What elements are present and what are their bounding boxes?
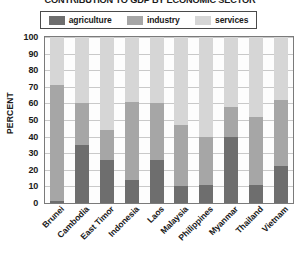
segment-agriculture [50, 201, 64, 203]
legend-item-industry: industry [127, 15, 180, 25]
segment-agriculture [125, 180, 139, 203]
legend-label-industry: industry [147, 15, 180, 25]
y-tick-80: 80 [28, 65, 38, 75]
legend-label-services: services [215, 15, 248, 25]
bar-cambodia [75, 37, 89, 203]
legend-swatch-industry [127, 16, 143, 25]
segment-services [224, 37, 238, 107]
x-tick-vietnam: Vietnam [260, 204, 290, 234]
y-tick-40: 40 [28, 132, 38, 142]
segment-agriculture [249, 185, 263, 203]
y-tick-10: 10 [28, 181, 38, 191]
legend-item-services: services [195, 15, 248, 25]
segment-services [274, 37, 288, 100]
y-tick-90: 90 [28, 49, 38, 59]
plot-area [44, 36, 294, 204]
segment-industry [100, 130, 114, 160]
segment-agriculture [174, 186, 188, 203]
segment-agriculture [274, 166, 288, 203]
segment-agriculture [199, 185, 213, 203]
y-tick-60: 60 [28, 98, 38, 108]
legend-label-agriculture: agriculture [69, 15, 112, 25]
segment-services [100, 37, 114, 130]
legend-item-agriculture: agriculture [49, 15, 112, 25]
legend-swatch-agriculture [49, 16, 65, 25]
segment-industry [75, 103, 89, 145]
segment-services [125, 37, 139, 102]
segment-services [199, 37, 213, 137]
segment-industry [224, 107, 238, 137]
bar-brunei [50, 37, 64, 203]
y-tick-50: 50 [28, 115, 38, 125]
segment-services [174, 37, 188, 125]
segment-industry [174, 125, 188, 186]
bars-layer [45, 37, 293, 203]
bar-laos [150, 37, 164, 203]
segment-services [75, 37, 89, 103]
bar-vietnam [274, 37, 288, 203]
bar-philippines [199, 37, 213, 203]
chart-container: CONTRIBUTION TO GDP BY ECONOMIC SECTOR a… [0, 0, 300, 267]
segment-agriculture [100, 160, 114, 203]
y-tick-0: 0 [33, 198, 38, 208]
bar-myanmar [224, 37, 238, 203]
bar-thailand [249, 37, 263, 203]
bar-east-timor [100, 37, 114, 203]
bar-malaysia [174, 37, 188, 203]
segment-agriculture [75, 145, 89, 203]
segment-industry [249, 117, 263, 185]
segment-services [249, 37, 263, 117]
segment-industry [150, 103, 164, 159]
segment-agriculture [224, 137, 238, 203]
y-axis-ticks: 1009080706050403020100 [0, 36, 41, 204]
segment-industry [125, 102, 139, 180]
y-tick-20: 20 [28, 165, 38, 175]
legend-swatch-services [195, 16, 211, 25]
y-tick-100: 100 [24, 32, 38, 42]
segment-services [150, 37, 164, 103]
bar-indonesia [125, 37, 139, 203]
segment-services [50, 37, 64, 85]
chart-title: CONTRIBUTION TO GDP BY ECONOMIC SECTOR [0, 0, 300, 5]
y-tick-30: 30 [28, 148, 38, 158]
segment-agriculture [150, 160, 164, 203]
x-tick-laos: Laos [145, 204, 166, 225]
chart-legend: agriculture industry services [40, 11, 257, 29]
x-axis-labels: BruneiCambodiaEast TimorIndonesiaLaosMal… [44, 204, 294, 266]
segment-industry [274, 100, 288, 166]
segment-industry [50, 85, 64, 201]
segment-industry [199, 137, 213, 185]
y-tick-70: 70 [28, 82, 38, 92]
